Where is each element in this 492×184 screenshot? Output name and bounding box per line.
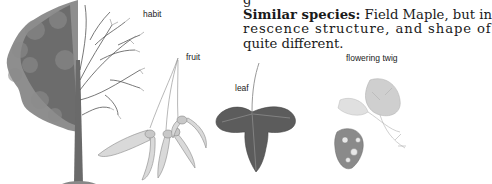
description-line-3: quite different.: [243, 37, 423, 52]
label-leaf: leaf: [235, 83, 249, 93]
description-line-2: rescence structure, and shape of: [243, 22, 423, 37]
leaf-illustration: [216, 63, 295, 172]
similar-species-heading: Similar species:: [243, 7, 360, 22]
label-flowering-twig: flowering twig: [346, 53, 398, 63]
label-habit: habit: [143, 9, 161, 19]
habit-tree-illustration: [7, 0, 145, 184]
flowering-twig-illustration: [335, 79, 406, 169]
description-line-1: Similar species: Field Maple, but in: [243, 8, 423, 23]
label-fruit: fruit: [186, 52, 200, 62]
similar-species-text: Field Maple, but in: [360, 7, 492, 22]
fruit-samara-illustration: [98, 58, 206, 180]
description-text: g Similar species: Field Maple, but in r…: [243, 0, 423, 51]
